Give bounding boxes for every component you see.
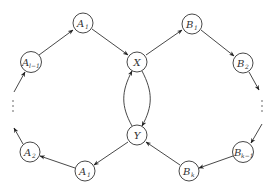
edge-dots-Bk1 (251, 124, 262, 143)
ellipsis-left (12, 100, 14, 112)
node-A1-top: A 1 (73, 13, 93, 33)
node-subscript: 1 (85, 23, 89, 30)
edge-Y-A1bot (94, 142, 128, 165)
node-label: B (236, 58, 244, 69)
node-subscript: l−1 (29, 62, 40, 69)
edge-B1-B2 (201, 30, 234, 56)
node-label: A (21, 57, 29, 68)
node-A1-bottom: A 1 (75, 161, 95, 181)
edge-Bk1-Bk (199, 156, 233, 168)
node-subscript: 1 (87, 171, 91, 178)
node-label: X (132, 57, 141, 68)
node-X: X (127, 52, 147, 72)
node-subscript: k (191, 171, 195, 178)
node-A-l-1: A l−1 (21, 52, 42, 73)
node-B1: B 1 (182, 14, 202, 34)
edges (14, 29, 262, 168)
node-Bk: B k (179, 161, 199, 181)
edge-dots-Al1 (14, 72, 25, 92)
edge-Bk-Y (146, 142, 180, 165)
edge-X-Y-curve (142, 71, 150, 126)
edge-B2-dots (249, 72, 259, 90)
node-Y: Y (127, 125, 147, 145)
node-label: B (182, 166, 190, 177)
edge-A1bot-A2 (40, 156, 75, 168)
node-label: B (185, 19, 193, 30)
node-subscript: 1 (194, 24, 198, 31)
edge-A2-dots (14, 128, 23, 144)
edge-Y-X-curve (124, 71, 132, 126)
node-label: A (78, 166, 86, 177)
node-B-k-1: B k−1 (233, 142, 254, 163)
ellipsis-right (261, 100, 263, 112)
node-B2: B 2 (233, 53, 253, 73)
node-label: A (23, 147, 31, 158)
node-subscript: 2 (31, 152, 36, 159)
node-A2: A 2 (20, 142, 40, 162)
node-subscript: k−1 (241, 152, 253, 159)
edge-Al1-A1top (39, 30, 73, 55)
graph-canvas: X Y A 1 A l−1 A 2 A 1 B 1 B 2 B k−1 B (0, 0, 275, 189)
node-subscript: 2 (244, 63, 249, 70)
node-label: A (76, 18, 84, 29)
edge-A1top-X (92, 29, 128, 55)
edge-X-B1 (146, 30, 182, 55)
